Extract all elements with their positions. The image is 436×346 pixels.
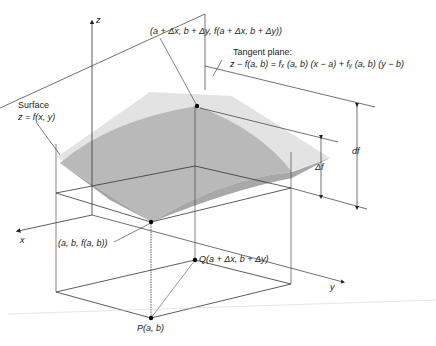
x-axis	[18, 215, 92, 231]
top-point	[195, 104, 199, 108]
surface-leader	[36, 122, 60, 155]
differential-diagram: z x y (a + Δx, b + Δy, f(a + Δx, b + Δy)…	[0, 0, 436, 346]
point-q-label: Q(a + Δx, b + Δy)	[199, 254, 269, 264]
base-point	[149, 220, 153, 224]
z-axis-label: z	[95, 15, 101, 25]
delta-f-label: Δf	[314, 162, 325, 172]
tangent-plane-title: Tangent plane:	[233, 47, 292, 57]
base-point-label: (a, b, f(a, b))	[58, 238, 108, 248]
y-axis-label: y	[329, 282, 335, 292]
df-label: df	[352, 146, 361, 156]
surface-equation: z = f(x, y)	[17, 112, 55, 122]
point-p	[149, 316, 153, 320]
point-q	[193, 258, 197, 262]
x-axis-label: x	[19, 235, 25, 245]
y-axis	[92, 215, 343, 282]
base-point-leader	[114, 224, 149, 242]
tangent-plane-equation: z − f(a, b) = fₓ (a, b) (x − a) + fᵧ (a,…	[229, 59, 404, 69]
top-point-label: (a + Δx, b + Δy, f(a + Δx, b + Δy))	[150, 26, 282, 36]
page-rule	[8, 300, 436, 314]
surface-title: Surface	[18, 100, 49, 110]
point-p-label: P(a, b)	[137, 323, 164, 333]
